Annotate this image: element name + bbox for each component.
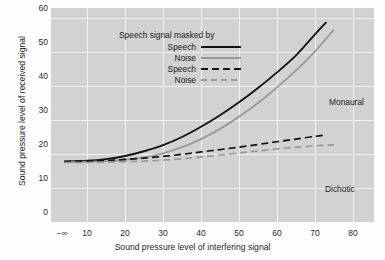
y-tick-label: 60 [4, 4, 48, 13]
plot-area: Speech signal masked by Speech Noise Spe… [51, 8, 374, 222]
legend-label: Noise [175, 75, 201, 85]
x-tick-label: 50 [219, 229, 259, 238]
x-tick-label: 70 [295, 229, 335, 238]
legend-label: Noise [175, 53, 201, 63]
y-tick-label: 0 [4, 208, 48, 217]
legend-swatch-solid-black [201, 43, 241, 51]
legend-entry-noise-solid: Noise [119, 52, 241, 63]
annotation-dichotic: Dichotic [325, 184, 355, 194]
legend-entry-speech-dashed: Speech [119, 63, 241, 74]
x-tick-label: 10 [67, 229, 107, 238]
legend: Speech signal masked by Speech Noise Spe… [119, 30, 241, 85]
x-axis-ticks: −∞ 10 20 30 40 50 60 70 80 [0, 229, 385, 241]
annotation-monaural: Monaural [329, 97, 364, 107]
x-tick-label: 30 [143, 229, 183, 238]
x-tick-label: 80 [333, 229, 373, 238]
x-tick-label: 40 [181, 229, 221, 238]
chart-figure: Speech signal masked by Speech Noise Spe… [0, 0, 385, 260]
x-tick-label: 60 [257, 229, 297, 238]
legend-swatch-solid-gray [201, 54, 241, 62]
legend-swatch-dashed-gray [201, 76, 241, 84]
legend-title: Speech signal masked by [119, 30, 241, 40]
y-axis-title: Sound pressure level of received signal [17, 26, 27, 196]
legend-label: Speech [168, 64, 201, 74]
x-axis-title: Sound pressure level of interfering sign… [0, 242, 385, 252]
legend-entry-noise-dashed: Noise [119, 74, 241, 85]
x-tick-label: 20 [105, 229, 145, 238]
legend-entry-speech-solid: Speech [119, 41, 241, 52]
legend-swatch-dashed-black [201, 65, 241, 73]
legend-label: Speech [168, 42, 201, 52]
